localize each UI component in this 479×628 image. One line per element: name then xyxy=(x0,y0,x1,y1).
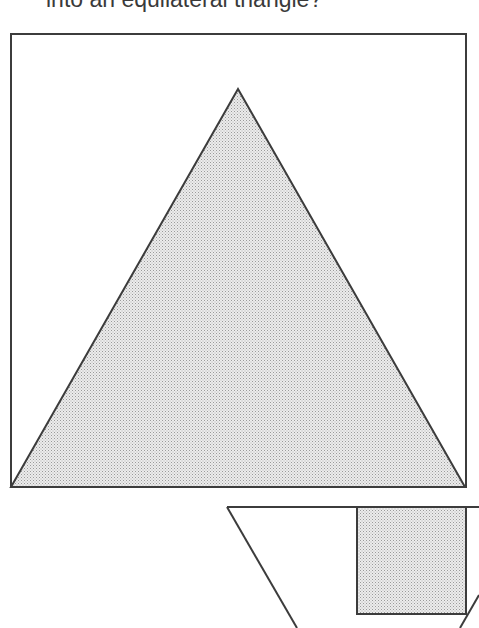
shaded-square-piece xyxy=(357,507,466,614)
equilateral-triangle xyxy=(11,89,465,487)
dissection-figure xyxy=(0,0,479,628)
lower-shape-left-diagonal xyxy=(227,507,297,628)
